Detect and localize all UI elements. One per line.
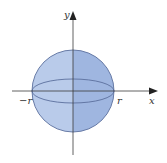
sphere-diagram: y x −r r bbox=[0, 0, 167, 163]
pos-r-label: r bbox=[117, 95, 123, 106]
x-axis-label: x bbox=[149, 95, 155, 106]
neg-r-label: −r bbox=[19, 95, 33, 106]
y-axis-label: y bbox=[63, 9, 70, 20]
y-axis-arrow-icon bbox=[70, 11, 77, 20]
x-axis-arrow-icon bbox=[149, 88, 158, 95]
